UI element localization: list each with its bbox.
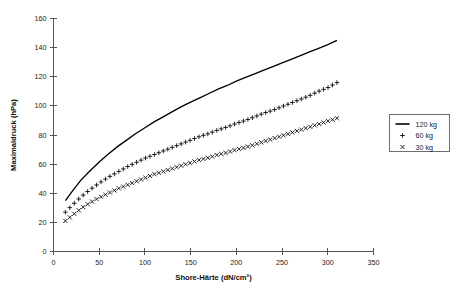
x-tick-label: 300	[322, 258, 334, 267]
y-tick-label: 160	[35, 14, 47, 23]
chart-figure: 0204060801001201401600501001502002503003…	[0, 0, 463, 294]
series-120-kg	[65, 40, 337, 200]
legend-label: 120 kg	[416, 120, 438, 129]
x-tick-label: 0	[52, 258, 56, 267]
y-tick-label: 40	[39, 189, 47, 198]
maximaldruck-vs-shore-haerte-chart: 0204060801001201401600501001502002503003…	[0, 0, 463, 294]
series-line-path	[65, 40, 337, 200]
chart-legend: 120 kg60 kg30 kg	[390, 115, 450, 152]
x-tick-label: 100	[139, 258, 151, 267]
x-axis-title: Shore-Härte (dN/cm²)	[175, 273, 252, 282]
legend-label: 60 kg	[416, 131, 434, 140]
y-tick-label: 140	[35, 43, 47, 52]
y-tick-label: 80	[39, 131, 47, 140]
x-tick-label: 350	[368, 258, 380, 267]
x-tick-label: 250	[276, 258, 288, 267]
series-30-kg	[63, 116, 339, 223]
y-tick-label: 20	[39, 218, 47, 227]
y-axis-title: Maximaldruck (hPa)	[9, 99, 18, 171]
x-tick-label: 150	[185, 258, 197, 267]
y-tick-label: 0	[43, 247, 47, 256]
x-tick-label: 50	[95, 258, 103, 267]
y-tick-label: 60	[39, 160, 47, 169]
legend-label: 30 kg	[416, 143, 434, 152]
x-tick-label: 200	[230, 258, 242, 267]
series-60-kg	[63, 80, 339, 214]
y-tick-label: 100	[35, 101, 47, 110]
y-tick-label: 120	[35, 72, 47, 81]
plot-area: 0204060801001201401600501001502002503003…	[9, 14, 450, 281]
